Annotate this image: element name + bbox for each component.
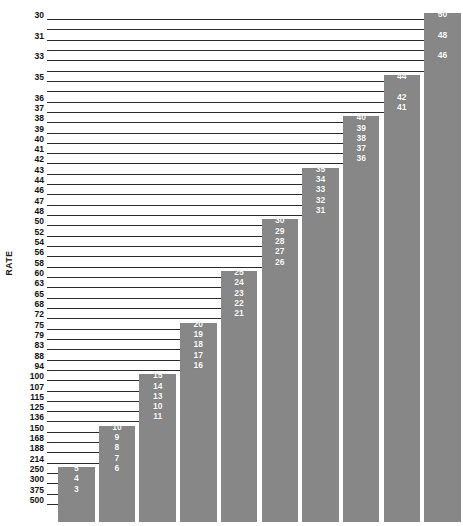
bar-value-label: 36 — [343, 153, 380, 164]
bar: 1514131011 — [139, 374, 176, 522]
y-axis-title: RATE — [0, 0, 18, 526]
bar: 2019181716 — [180, 323, 217, 522]
rate-step-bar-chart: RATE 30313335363738394041424344464748505… — [0, 0, 463, 526]
bar-value-label: 11 — [139, 411, 176, 422]
bar-value-label: 26 — [262, 257, 299, 268]
bar: 4039383736 — [343, 116, 380, 522]
plot-area: 3031333536373839404142434446474850525456… — [18, 4, 463, 522]
bar: 504846 — [424, 13, 461, 522]
bar: 2524232221 — [221, 271, 258, 522]
y-axis-leader-line — [47, 504, 58, 505]
bar: 543 — [58, 467, 95, 522]
bar-value-label: 3 — [58, 484, 95, 495]
bar-value-label: 50 — [424, 9, 461, 20]
bar-value-label: 48 — [424, 30, 461, 41]
bar: 3029282726 — [262, 219, 299, 522]
bar-value-label: 44 — [384, 71, 421, 82]
y-axis-tick-label: 500 — [18, 495, 44, 506]
bar-value-label: 31 — [302, 205, 339, 216]
bar: 109876 — [99, 426, 136, 522]
bar: 3534333231 — [302, 168, 339, 522]
bar: 444241 — [384, 75, 421, 522]
bar-value-label: 6 — [99, 463, 136, 474]
bar-value-label: 16 — [180, 360, 217, 371]
y-axis-title-label: RATE — [4, 251, 14, 276]
bar-value-label: 46 — [424, 50, 461, 61]
bar-value-label: 41 — [384, 102, 421, 113]
bar-value-label: 21 — [221, 308, 258, 319]
